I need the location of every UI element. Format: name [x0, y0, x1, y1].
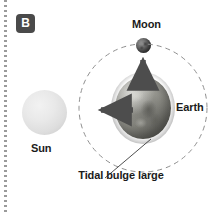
earth-label: Earth	[176, 101, 204, 113]
moon-label: Moon	[132, 18, 161, 30]
sun-label: Sun	[31, 142, 51, 154]
tidal-bulge-label: Tidal bulge large	[75, 168, 167, 182]
tidal-bulge-diagram-panel-b: B Moon Earth Sun Tidal bulge large	[0, 0, 223, 214]
